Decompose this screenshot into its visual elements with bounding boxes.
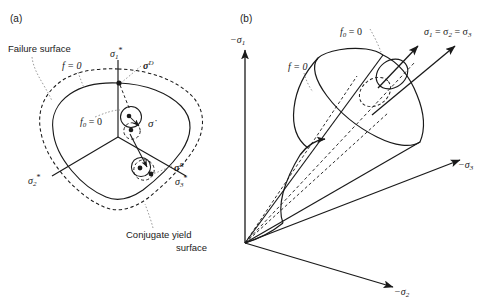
neg-sigma2-subscript: 2 [406,291,410,299]
hydro-eq2: = σ [452,26,468,37]
sigma2-star: * [36,173,40,182]
small-yield-circle-lower-center [129,128,134,133]
sigma-dot-arrow [129,116,139,126]
axis-label-sigma1-star: σ1* [110,44,122,61]
panel-a-tag: (a) [10,14,22,24]
axis-neg-sigma3 [245,160,460,243]
neg-sigma1-subscript: 1 [242,39,246,47]
axis-label-neg-sigma1: −σ1 [230,30,245,47]
axis-label-sigma3-star: σ3* [175,172,187,189]
conjugate-yield-center-dot [138,166,143,171]
failure-surface-label: Failure surface [8,44,71,54]
sigma-D-superscript: D [148,59,153,67]
stress-point-D-dot [116,80,121,85]
axis-label-neg-sigma3: −σ3 [458,155,473,172]
leader-failure-surface [32,57,52,101]
f0-ellipse-dashed [354,71,397,112]
panel-b-f-zero-label: f = 0 [288,62,308,72]
cone-open-end-curve [315,48,424,145]
figure-root: (a) Failure surface f = 0 f0 = 0 σ̇ σD σ… [0,0,499,302]
hydro-eq1: = σ [432,26,448,37]
axis-label-sigma2-star: σ2* [28,171,40,188]
conjugate-yield-surface-label-line1: Conjugate yield [126,230,192,240]
sigma1-star: * [118,46,122,55]
conjugate-yield-circle-dashed [134,160,154,180]
panel-b-graphics [245,29,460,287]
leader-sigma-D [122,66,141,82]
f0-cone-dashed-generator [245,76,357,243]
stress-point-R-dot [149,172,154,177]
panel-a-f0-zero-label: f0 = 0 [80,112,102,129]
panel-b-tag: (b) [240,14,252,24]
cone-small-curved-arrow [300,139,325,155]
neg-sigma1-symbol: −σ [230,34,242,45]
hydro-sub3: 3 [468,31,472,39]
hydrostatic-axis-label: σ1 = σ2 = σ3 [424,22,472,39]
sigma3-star: * [183,174,187,183]
sigma-R-superscript: R [179,161,183,169]
figure-canvas [0,0,499,302]
leader-f0-zero-b [370,29,381,52]
axis-neg-sigma2 [245,243,393,287]
yield-surface-solid-curve [53,83,190,200]
panel-b-f0-zero-label: f0 = 0 [340,22,362,39]
sigma-dot-label: σ̇ [148,118,153,129]
loading-path-dashed [120,85,130,110]
panel-a-f-zero-label: f = 0 [62,61,82,71]
conjugate-yield-surface-label-line2: surface [176,243,207,253]
neg-sigma2-symbol: −σ [394,286,406,297]
neg-sigma3-symbol: −σ [458,159,470,170]
panel-a-graphics [32,57,203,228]
panel-b-f0-equals: = 0 [346,26,362,37]
sigma-D-label: σD [143,56,153,72]
f0-cone-dashed-generator2 [245,113,388,243]
axis-label-neg-sigma2: −σ2 [394,282,409,299]
neg-sigma3-subscript: 3 [470,164,474,172]
f0-equals: = 0 [86,116,102,127]
cone-generator-upper [245,55,383,243]
leader-conjugate-surface [145,204,153,228]
leader-f-zero-a [78,72,84,88]
cone-generator-lower [245,142,420,243]
